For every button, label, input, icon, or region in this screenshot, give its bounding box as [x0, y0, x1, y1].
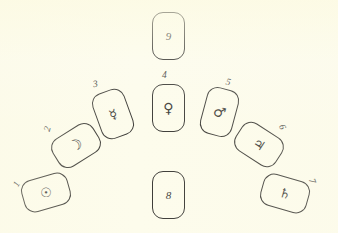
- card-4[interactable]: ♀: [152, 84, 185, 132]
- card-inner-number: 9: [152, 12, 185, 60]
- card-position-label-6: 6: [277, 123, 288, 131]
- card-9[interactable]: 9: [152, 12, 185, 60]
- venus-symbol: ♀: [152, 84, 185, 132]
- saturn-symbol: ♄: [257, 171, 312, 216]
- card-7[interactable]: ♄: [257, 171, 312, 216]
- card-position-label-4: 4: [162, 70, 167, 80]
- sun-symbol: ☉: [18, 170, 73, 215]
- card-position-label-2: 2: [42, 125, 53, 132]
- card-position-label-5: 5: [225, 77, 232, 88]
- card-inner-number: 8: [152, 171, 185, 219]
- mars-symbol: ♂: [197, 85, 241, 140]
- card-5[interactable]: ♂: [197, 85, 241, 140]
- card-position-label-1: 1: [11, 180, 22, 189]
- card-8[interactable]: 8: [152, 171, 185, 219]
- diagram-canvas: ☉1☽2☿3♀4♂5♃6♄789: [0, 0, 338, 233]
- card-position-label-7: 7: [307, 177, 318, 185]
- card-1[interactable]: ☉: [18, 170, 73, 215]
- moon-symbol: ☽: [47, 119, 105, 172]
- card-2[interactable]: ☽: [47, 119, 105, 172]
- card-position-label-3: 3: [92, 79, 98, 90]
